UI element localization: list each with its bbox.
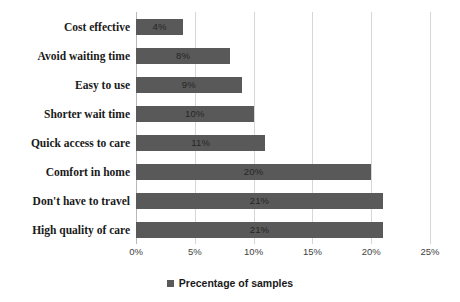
bar-row: 4% [136, 19, 430, 35]
value-tick-label: 20% [362, 246, 381, 257]
bar-value-label: 8% [136, 48, 230, 64]
chart-legend: Precentage of samples [0, 277, 460, 289]
bar-value-label: 21% [136, 193, 383, 209]
value-tick-label: 5% [188, 246, 202, 257]
plot-area: 4%8%9%10%11%20%21%21% [136, 12, 430, 244]
category-label: Avoid waiting time [0, 50, 130, 62]
category-label: Easy to use [0, 79, 130, 91]
bar-row: 20% [136, 164, 430, 180]
category-label: Shorter wait time [0, 108, 130, 120]
category-label: High quality of care [0, 224, 130, 236]
bar-value-label: 4% [136, 19, 183, 35]
bar-row: 10% [136, 106, 430, 122]
category-label: Quick access to care [0, 137, 130, 149]
bar-value-label: 10% [136, 106, 254, 122]
category-label: Don't have to travel [0, 195, 130, 207]
bar-row: 21% [136, 193, 430, 209]
bar-value-label: 21% [136, 222, 383, 238]
bar-row: 8% [136, 48, 430, 64]
legend-label: Precentage of samples [179, 277, 293, 289]
value-tick-label: 25% [420, 246, 439, 257]
bar-value-label: 11% [136, 135, 265, 151]
bar-row: 9% [136, 77, 430, 93]
value-tick-label: 15% [303, 246, 322, 257]
value-axis-ticks: 0%5%10%15%20%25% [136, 246, 430, 262]
category-axis: Cost effectiveAvoid waiting timeEasy to … [0, 12, 130, 244]
bar-value-label: 9% [136, 77, 242, 93]
category-label: Comfort in home [0, 166, 130, 178]
value-tick-label: 0% [129, 246, 143, 257]
bar-row: 11% [136, 135, 430, 151]
value-tick-label: 10% [244, 246, 263, 257]
bar-row: 21% [136, 222, 430, 238]
bar-value-label: 20% [136, 164, 371, 180]
legend-square-icon [167, 280, 174, 287]
category-label: Cost effective [0, 21, 130, 33]
gridline [430, 12, 431, 244]
bar-chart: Cost effectiveAvoid waiting timeEasy to … [0, 0, 460, 302]
